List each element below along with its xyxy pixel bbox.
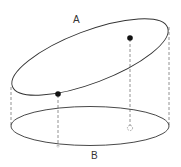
top-ellipse-a	[3, 3, 177, 111]
right-point-on-a	[127, 35, 133, 41]
label-b: B	[91, 150, 98, 161]
left-point-on-a	[55, 91, 61, 97]
projection-diagram: A B	[0, 0, 181, 167]
label-a: A	[73, 14, 80, 25]
hollow-projected-point	[127, 125, 132, 130]
bottom-ellipse-b	[11, 107, 169, 146]
